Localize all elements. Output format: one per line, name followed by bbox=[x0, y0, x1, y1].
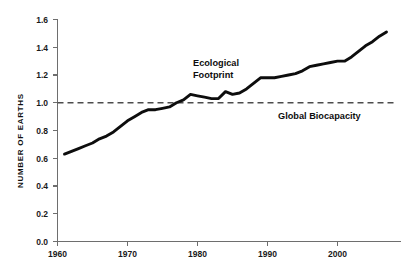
annotation-global-biocapacity: Global Biocapacity bbox=[278, 111, 362, 121]
x-tick-label-1960: 1960 bbox=[48, 249, 67, 259]
y-axis-ticks bbox=[53, 20, 58, 242]
annotation-ecological-footprint: Ecological Footprint bbox=[193, 58, 239, 80]
y-tick-label-1-4: 1.4 bbox=[36, 43, 48, 53]
x-tick-label-1970: 1970 bbox=[118, 249, 137, 259]
y-tick-label-1-0: 1.0 bbox=[36, 98, 48, 108]
x-axis-ticks bbox=[58, 242, 338, 247]
y-tick-label-1-6: 1.6 bbox=[36, 15, 48, 25]
x-tick-label-2000: 2000 bbox=[328, 249, 347, 259]
ecological-footprint-chart: 1.6 1.4 1.2 1.0 0.8 0.6 0.4 0.2 0.0 1960… bbox=[0, 0, 418, 269]
y-tick-label-0-8: 0.8 bbox=[36, 126, 48, 136]
y-axis-tick-labels: 1.6 1.4 1.2 1.0 0.8 0.6 0.4 0.2 0.0 bbox=[36, 15, 48, 247]
y-tick-label-1-2: 1.2 bbox=[36, 70, 48, 80]
chart-canvas: 1.6 1.4 1.2 1.0 0.8 0.6 0.4 0.2 0.0 1960… bbox=[0, 0, 418, 269]
x-tick-label-1980: 1980 bbox=[188, 249, 207, 259]
y-axis-title: NUMBER OF EARTHS bbox=[16, 93, 25, 188]
y-tick-label-0-0: 0.0 bbox=[36, 237, 48, 247]
y-tick-label-0-6: 0.6 bbox=[36, 154, 48, 164]
y-tick-label-0-4: 0.4 bbox=[36, 181, 48, 191]
ecological-footprint-series-line bbox=[65, 32, 387, 154]
chart-axes bbox=[58, 20, 401, 242]
annotation-footprint-line2: Footprint bbox=[193, 70, 233, 80]
annotation-footprint-line1: Ecological bbox=[193, 58, 239, 68]
x-axis-tick-labels: 1960 1970 1980 1990 2000 bbox=[48, 249, 347, 259]
y-tick-label-0-2: 0.2 bbox=[36, 209, 48, 219]
x-tick-label-1990: 1990 bbox=[258, 249, 277, 259]
